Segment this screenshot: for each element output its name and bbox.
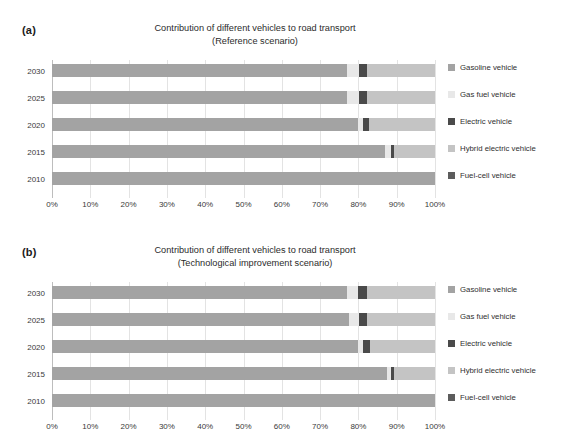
legend-item-fuel-cell-vehicle[interactable]: Fuel-cell vehicle: [448, 393, 516, 402]
x-tick-label: 70%: [312, 200, 328, 209]
x-tick-label: 100%: [425, 422, 445, 431]
bar-segment-gasoline-vehicle[interactable]: [52, 286, 347, 299]
bar-row: 2030: [52, 286, 435, 299]
bar-segment-hybrid-electric-vehicle[interactable]: [367, 313, 435, 326]
stacked-bar[interactable]: [52, 64, 435, 77]
x-tick-label: 10%: [82, 422, 98, 431]
chart-title-a: Contribution of different vehicles to ro…: [70, 22, 440, 48]
legend-item-gas-fuel-vehicle[interactable]: Gas fuel vehicle: [448, 312, 515, 321]
bar-segment-electric-vehicle[interactable]: [363, 340, 370, 353]
legend-swatch-icon: [448, 340, 455, 347]
bar-segment-gas-fuel-vehicle[interactable]: [347, 286, 358, 299]
stacked-bar[interactable]: [52, 340, 435, 353]
legend-label: Fuel-cell vehicle: [460, 171, 516, 180]
legend-label: Fuel-cell vehicle: [460, 393, 516, 402]
legend-item-hybrid-electric-vehicle[interactable]: Hybrid electric vehicle: [448, 366, 536, 375]
bar-segment-gasoline-vehicle[interactable]: [52, 172, 435, 185]
bar-segment-gasoline-vehicle[interactable]: [52, 145, 385, 158]
legend-item-electric-vehicle[interactable]: Electric vehicle: [448, 117, 512, 126]
stacked-bar[interactable]: [52, 172, 435, 185]
legend-item-gasoline-vehicle[interactable]: Gasoline vehicle: [448, 285, 517, 294]
stacked-bar[interactable]: [52, 286, 435, 299]
stacked-bar[interactable]: [52, 394, 435, 407]
x-tick-label: 80%: [350, 200, 366, 209]
legend-item-gas-fuel-vehicle[interactable]: Gas fuel vehicle: [448, 90, 515, 99]
legend-label: Hybrid electric vehicle: [460, 144, 536, 153]
stacked-bar[interactable]: [52, 313, 435, 326]
bar-segment-gasoline-vehicle[interactable]: [52, 340, 358, 353]
legend-item-hybrid-electric-vehicle[interactable]: Hybrid electric vehicle: [448, 144, 536, 153]
legend-item-fuel-cell-vehicle[interactable]: Fuel-cell vehicle: [448, 171, 516, 180]
bar-row: 2020: [52, 340, 435, 353]
plot-area-b: 20302025202020152010: [52, 282, 435, 420]
legend-swatch-icon: [448, 286, 455, 293]
stacked-bar[interactable]: [52, 91, 435, 104]
legend-b: Gasoline vehicleGas fuel vehicleElectric…: [448, 282, 560, 420]
bar-segment-hybrid-electric-vehicle[interactable]: [394, 367, 435, 380]
x-tick-label: 40%: [197, 422, 213, 431]
chart-title-a-line2: (Reference scenario): [70, 35, 440, 48]
bar-row: 2010: [52, 172, 435, 185]
x-tick-label: 100%: [425, 200, 445, 209]
y-tick-label: 2020: [27, 120, 45, 129]
bar-row: 2010: [52, 394, 435, 407]
y-tick-label: 2025: [27, 315, 45, 324]
legend-swatch-icon: [448, 394, 455, 401]
legend-swatch-icon: [448, 118, 455, 125]
legend-swatch-icon: [448, 172, 455, 179]
y-tick-label: 2010: [27, 174, 45, 183]
bar-segment-electric-vehicle[interactable]: [359, 64, 367, 77]
x-tick-label: 90%: [389, 200, 405, 209]
bar-segment-electric-vehicle[interactable]: [359, 313, 367, 326]
bar-segment-hybrid-electric-vehicle[interactable]: [394, 145, 435, 158]
legend-swatch-icon: [448, 145, 455, 152]
bar-segment-gasoline-vehicle[interactable]: [52, 91, 347, 104]
bar-segment-hybrid-electric-vehicle[interactable]: [370, 340, 435, 353]
bar-segment-gasoline-vehicle[interactable]: [52, 118, 358, 131]
panel-label-b: (b): [22, 246, 37, 258]
bar-row: 2020: [52, 118, 435, 131]
bar-segment-gas-fuel-vehicle[interactable]: [347, 64, 359, 77]
bar-segment-gas-fuel-vehicle[interactable]: [349, 313, 359, 326]
legend-label: Electric vehicle: [460, 339, 512, 348]
y-tick-label: 2020: [27, 342, 45, 351]
x-tick-label: 40%: [197, 200, 213, 209]
gridline-100%: [435, 60, 436, 198]
bar-row: 2025: [52, 313, 435, 326]
plot-area-a: 20302025202020152010: [52, 60, 435, 198]
stacked-bar[interactable]: [52, 118, 435, 131]
bar-segment-gasoline-vehicle[interactable]: [52, 64, 347, 77]
gridline-100%: [435, 282, 436, 420]
bar-rows-b: 20302025202020152010: [52, 282, 435, 420]
x-axis-a: 0%10%20%30%40%50%60%70%80%90%100%: [52, 200, 435, 216]
legend-item-gasoline-vehicle[interactable]: Gasoline vehicle: [448, 63, 517, 72]
x-tick-label: 20%: [121, 422, 137, 431]
y-tick-label: 2030: [27, 288, 45, 297]
stacked-bar[interactable]: [52, 145, 435, 158]
x-tick-label: 20%: [121, 200, 137, 209]
bar-segment-hybrid-electric-vehicle[interactable]: [367, 64, 435, 77]
y-tick-label: 2025: [27, 93, 45, 102]
bar-segment-electric-vehicle[interactable]: [359, 91, 367, 104]
bar-segment-gasoline-vehicle[interactable]: [52, 367, 387, 380]
legend-swatch-icon: [448, 64, 455, 71]
x-tick-label: 80%: [350, 422, 366, 431]
legend-item-electric-vehicle[interactable]: Electric vehicle: [448, 339, 512, 348]
stacked-bar[interactable]: [52, 367, 435, 380]
legend-label: Hybrid electric vehicle: [460, 366, 536, 375]
chart-title-b: Contribution of different vehicles to ro…: [70, 244, 440, 270]
bar-segment-hybrid-electric-vehicle[interactable]: [367, 286, 435, 299]
x-tick-label: 0%: [46, 200, 58, 209]
bar-segment-gasoline-vehicle[interactable]: [52, 313, 349, 326]
bar-row: 2030: [52, 64, 435, 77]
y-tick-label: 2015: [27, 369, 45, 378]
panel-a: (a) Contribution of different vehicles t…: [0, 0, 563, 222]
legend-swatch-icon: [448, 367, 455, 374]
legend-label: Electric vehicle: [460, 117, 512, 126]
y-tick-label: 2030: [27, 66, 45, 75]
bar-segment-gas-fuel-vehicle[interactable]: [347, 91, 359, 104]
bar-segment-hybrid-electric-vehicle[interactable]: [367, 91, 435, 104]
bar-segment-gasoline-vehicle[interactable]: [52, 394, 435, 407]
bar-segment-hybrid-electric-vehicle[interactable]: [369, 118, 435, 131]
bar-segment-electric-vehicle[interactable]: [358, 286, 366, 299]
